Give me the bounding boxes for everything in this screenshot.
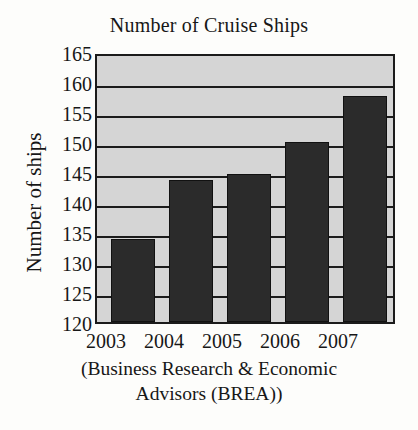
bar-2004 — [169, 180, 213, 322]
y-tick-label-165: 165 — [32, 44, 92, 64]
y-tick-label-140: 140 — [32, 194, 92, 214]
y-tick-label-145: 145 — [32, 164, 92, 184]
plot-area — [95, 54, 395, 324]
x-tick-label-2004: 2004 — [134, 330, 194, 353]
x-tick-label-2003: 2003 — [76, 330, 136, 353]
y-tick-label-160: 160 — [32, 74, 92, 94]
bar-2005 — [227, 174, 271, 322]
chart-figure: Number of Cruise Ships Number of ships 1… — [0, 0, 418, 430]
y-tick-label-155: 155 — [32, 104, 92, 124]
y-tick-label-135: 135 — [32, 224, 92, 244]
source-caption: (Business Research & Economic Advisors (… — [0, 357, 418, 407]
chart-title: Number of Cruise Ships — [0, 14, 418, 37]
gridline-160 — [97, 86, 393, 88]
y-tick-label-130: 130 — [32, 254, 92, 274]
bar-2003 — [111, 239, 155, 322]
y-tick-label-150: 150 — [32, 134, 92, 154]
bar-2006 — [285, 142, 329, 322]
x-tick-label-2007: 2007 — [308, 330, 368, 353]
source-caption-line-2: Advisors (BREA)) — [0, 382, 418, 407]
x-tick-label-2006: 2006 — [250, 330, 310, 353]
source-caption-line-1: (Business Research & Economic — [0, 357, 418, 382]
y-tick-label-125: 125 — [32, 284, 92, 304]
bar-2007 — [343, 96, 387, 322]
x-tick-label-2005: 2005 — [192, 330, 252, 353]
